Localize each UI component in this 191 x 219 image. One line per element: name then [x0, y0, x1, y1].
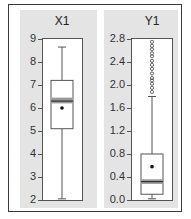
y1-outlier-point [150, 48, 153, 51]
y1-iqr-box [141, 154, 163, 194]
x1-mean-dot [60, 106, 64, 110]
x1-iqr-box [51, 80, 73, 128]
y1-outlier-point [150, 63, 153, 66]
y1-outlier-point [150, 86, 153, 89]
y1-outlier-point [150, 72, 153, 75]
y1-mean-dot [150, 165, 154, 169]
y1-outlier-point [150, 40, 153, 43]
y1-outlier-point [150, 77, 153, 80]
y1-outlier-point [150, 44, 153, 47]
y1-outlier-point [150, 82, 153, 85]
y1-outlier-point [150, 90, 153, 93]
y1-outlier-point [150, 67, 153, 70]
y1-outlier-point [150, 59, 153, 62]
boxplot-graphics [0, 0, 191, 219]
